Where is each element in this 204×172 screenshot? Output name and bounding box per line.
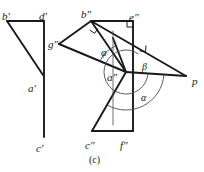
label-f-second: f″ <box>120 140 128 151</box>
label-g-second: g″ <box>48 39 58 50</box>
label-c-prime: c′ <box>36 143 43 154</box>
figure-caption: (c) <box>89 155 100 165</box>
label-c-second: c″ <box>85 140 94 151</box>
label-b-second: b″ <box>81 9 91 20</box>
label-a-prime: a′ <box>28 83 36 94</box>
side-projection-a-p-ray <box>126 72 186 76</box>
label-d-prime: d′ <box>39 11 47 22</box>
label-p-point: p <box>192 76 198 87</box>
label-alpha: α <box>141 93 146 103</box>
label-b-prime: b′ <box>2 11 10 22</box>
label-a-second: a″ <box>107 72 117 83</box>
front-projection-b-a-diagonal <box>7 21 43 75</box>
label-e-second: e″ <box>129 12 138 23</box>
front-projection-group <box>7 21 44 137</box>
side-projection-group <box>59 21 186 131</box>
descriptive-geometry-figure: b′d′a′c′b″e″g″a″c″f″pφβα (c) <box>0 0 204 172</box>
label-phi: φ <box>101 48 107 58</box>
side-projection-b-g-upper <box>59 21 91 44</box>
label-beta: β <box>142 62 147 72</box>
